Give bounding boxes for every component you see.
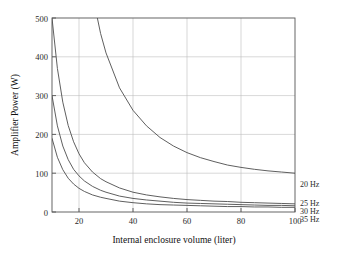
series-label-35hz: 35 Hz xyxy=(300,215,320,224)
x-tick-label-20: 20 xyxy=(75,216,84,226)
x-tick-label-60: 60 xyxy=(183,216,192,226)
y-axis-title: Amplifier Power (W) xyxy=(10,74,21,156)
y-tick-label-500: 500 xyxy=(35,14,48,24)
series-label-20hz: 20 Hz xyxy=(300,180,320,189)
x-tick-label-80: 80 xyxy=(237,216,246,226)
amplifier-power-chart: 500 400 300 200 100 0 20 40 60 80 100 In… xyxy=(0,0,344,262)
x-axis-title: Internal enclosure volume (liter) xyxy=(112,235,235,246)
y-tick-label-100: 100 xyxy=(35,169,48,179)
y-tick-label-0: 0 xyxy=(44,208,48,218)
y-tick-label-200: 200 xyxy=(35,130,48,140)
chart-figure: 500 400 300 200 100 0 20 40 60 80 100 In… xyxy=(0,0,344,262)
y-tick-label-300: 300 xyxy=(35,91,48,101)
x-tick-label-40: 40 xyxy=(129,216,138,226)
y-tick-label-400: 400 xyxy=(35,52,48,62)
